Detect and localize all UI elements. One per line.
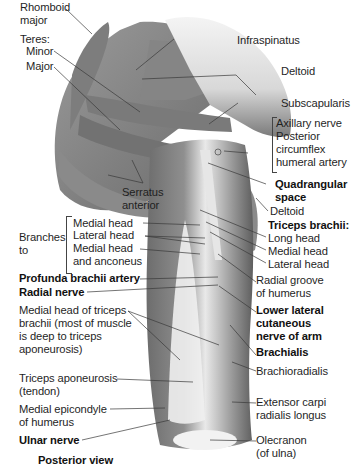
label-line: aponeurosis): [19, 343, 132, 356]
label-ulnar-nerve: Ulnar nerve: [19, 434, 79, 447]
label-line: (of ulna): [256, 447, 307, 460]
label-line: Triceps aponeurosis: [19, 372, 117, 385]
label-infraspinatus: Infraspinatus: [237, 34, 300, 47]
label-line: Medial epicondyle: [19, 403, 107, 416]
label-branch-medial-anconeus: Medial head and anconeus: [73, 242, 142, 268]
label-deltoid-lower: Deltoid: [270, 205, 304, 218]
label-ecrl: Extensor carpi radialis longus: [256, 396, 326, 422]
label-triceps-brachii: Triceps brachii:: [268, 219, 349, 232]
label-rhomboid-major: Rhomboid major: [20, 1, 70, 27]
label-medial-head: Medial head: [268, 245, 328, 258]
label-line: Axillary nerve: [276, 117, 347, 130]
label-brachioradialis: Brachioradialis: [256, 365, 328, 378]
label-brachialis: Brachialis: [256, 346, 308, 359]
label-line: to: [19, 244, 65, 257]
label-subscapularis: Subscapularis: [281, 97, 350, 110]
label-line: space: [275, 191, 347, 204]
label-branch-lateral-head: Lateral head: [73, 229, 134, 242]
label-axillary-group: Axillary nerve Posterior circumflex hume…: [276, 117, 347, 169]
label-teres-major: Major: [26, 60, 53, 73]
label-olecranon: Olecranon (of ulna): [256, 434, 307, 460]
label-line: Branches: [19, 231, 65, 244]
label-teres-minor: Minor: [26, 45, 53, 58]
label-line: radialis longus: [256, 409, 326, 422]
label-line: Posterior: [276, 130, 347, 143]
label-line: brachii (most of muscle: [19, 317, 132, 330]
label-line: (tendon): [19, 385, 117, 398]
label-line: cutaneous: [256, 317, 324, 330]
label-branches-to: Branches to: [19, 231, 65, 257]
label-line: and anconeus: [73, 255, 142, 268]
label-line: major: [20, 14, 70, 27]
label-line: Rhomboid: [20, 1, 70, 14]
label-triceps-aponeurosis: Triceps aponeurosis (tendon): [19, 372, 117, 398]
label-deltoid-top: Deltoid: [281, 65, 315, 78]
label-line: Olecranon: [256, 434, 307, 447]
label-medial-epicondyle: Medial epicondyle of humerus: [19, 403, 107, 429]
label-line: Extensor carpi: [256, 396, 326, 409]
branches-bracket: [66, 216, 72, 274]
label-lower-lateral-cutaneous: Lower lateral cutaneous nerve of arm: [256, 304, 324, 343]
label-profunda-brachii-artery: Profunda brachii artery: [19, 272, 140, 285]
label-line: Radial groove: [256, 274, 324, 287]
label-line: Medial head: [73, 242, 142, 255]
label-quadrangular-space: Quadrangular space: [275, 178, 347, 204]
label-line: of humerus: [256, 287, 324, 300]
label-line: Serratus: [122, 186, 163, 199]
label-radial-groove: Radial groove of humerus: [256, 274, 324, 300]
label-medial-head-triceps: Medial head of triceps brachii (most of …: [19, 304, 132, 356]
label-line: is deep to triceps: [19, 330, 132, 343]
figure-caption: Posterior view: [38, 454, 113, 467]
label-line: anterior: [122, 199, 163, 212]
label-line: circumflex: [276, 143, 347, 156]
label-line: Quadrangular: [275, 178, 347, 191]
label-line: nerve of arm: [256, 330, 324, 343]
label-line: of humerus: [19, 416, 107, 429]
label-serratus-anterior: Serratus anterior: [122, 186, 163, 212]
label-long-head: Long head: [268, 232, 320, 245]
label-radial-nerve: Radial nerve: [19, 286, 84, 299]
label-line: Lower lateral: [256, 304, 324, 317]
anatomy-figure: Rhomboid major Teres: Minor Major Serrat…: [0, 0, 358, 473]
label-lateral-head: Lateral head: [268, 258, 329, 271]
label-line: humeral artery: [276, 156, 347, 169]
label-line: Medial head of triceps: [19, 304, 132, 317]
